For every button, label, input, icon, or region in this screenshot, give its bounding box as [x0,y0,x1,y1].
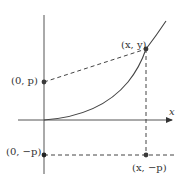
focus-dot [42,80,47,85]
parabola-diagram: x (x, y) (0, p) (0, −p) (x, −p) [0,0,187,182]
focus-to-point-dashed-line [44,49,146,82]
directrix-intercept-label: (0, −p) [6,146,41,157]
focus-label: (0, p) [11,75,38,86]
directrix-foot-dot [144,153,149,158]
directrix-intercept-dot [42,153,47,158]
point-xy-label: (x, y) [121,39,147,50]
parabola-curve [44,21,166,120]
x-axis-label: x [169,106,175,117]
directrix-foot-label: (x, −p) [132,162,167,173]
